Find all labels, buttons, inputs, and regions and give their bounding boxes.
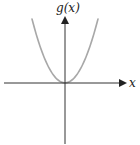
x-axis-label: x (129, 76, 136, 90)
y-axis-label: g(x) (56, 1, 80, 15)
function-graph: g(x) x (0, 0, 140, 145)
